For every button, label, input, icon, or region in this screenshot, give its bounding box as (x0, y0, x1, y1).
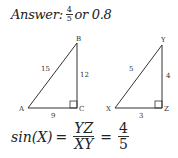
side-ab (28, 43, 77, 108)
vertex-label-c: C (79, 105, 84, 113)
triangle-abc: B A C 15 12 9 (18, 35, 89, 120)
ratio-fraction: YZ XY (73, 121, 94, 152)
equation-lhs: sin(X) (11, 129, 53, 145)
value-fraction: 4 5 (118, 121, 129, 152)
value-numerator: 4 (118, 121, 129, 137)
side-label-bc: 12 (80, 71, 89, 79)
ratio-denominator: XY (74, 137, 93, 152)
side-label-ac: 9 (51, 112, 55, 120)
ratio-numerator: YZ (73, 121, 94, 137)
side-label-xy: 5 (129, 65, 133, 73)
vertex-label-z: Z (164, 105, 169, 113)
side-label-ab: 15 (41, 65, 50, 73)
equals-sign-2: = (100, 129, 112, 145)
sine-equation: sin(X) = YZ XY = 4 5 (11, 121, 132, 152)
vertex-label-a: A (18, 105, 25, 113)
vertex-label-x: X (106, 105, 111, 113)
side-label-xz: 3 (139, 112, 143, 120)
value-denominator: 5 (119, 137, 128, 152)
vertex-label-b: B (76, 35, 81, 43)
side-label-yz: 4 (166, 72, 171, 80)
right-angle-marker-z (155, 101, 162, 108)
side-xy (115, 45, 162, 108)
vertex-label-y: Y (160, 36, 166, 44)
triangle-xyz: Y X Z 5 4 3 (106, 36, 171, 120)
equals-sign: = (56, 129, 68, 145)
right-angle-marker-c (70, 101, 77, 108)
